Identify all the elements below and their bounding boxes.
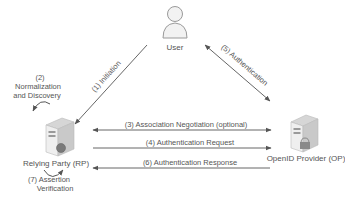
openid-flow-diagram: User (1) Initiation (5) Authentication (… xyxy=(0,0,345,199)
normalization-loop-arrow xyxy=(33,102,50,111)
step-7-label-line1: (7) Assertion xyxy=(28,175,70,184)
rp-server-icon xyxy=(46,118,74,156)
step-2-label-line1: (2) xyxy=(35,73,45,82)
op-server-icon xyxy=(291,115,318,152)
rp-label: Relying Party (RP) xyxy=(23,159,90,168)
step-5-label: (5) Authentication xyxy=(220,43,270,88)
op-label: OpenID Provider (OP) xyxy=(267,154,345,163)
step-7-label-line2: Verification xyxy=(37,184,74,193)
user-label: User xyxy=(167,43,184,52)
step-3-label: (3) Association Negotiation (optional) xyxy=(125,120,248,129)
step-4-label: (4) Authentication Request xyxy=(146,138,235,147)
step-2-label-line2: Normalization xyxy=(15,82,61,91)
user-icon xyxy=(163,7,187,39)
step-2-label-line3: and Discovery xyxy=(13,91,61,100)
step-6-label: (6) Authentication Response xyxy=(143,158,237,167)
initiation-arrow xyxy=(75,45,147,124)
step-1-label: (1) Initiation xyxy=(90,59,123,94)
